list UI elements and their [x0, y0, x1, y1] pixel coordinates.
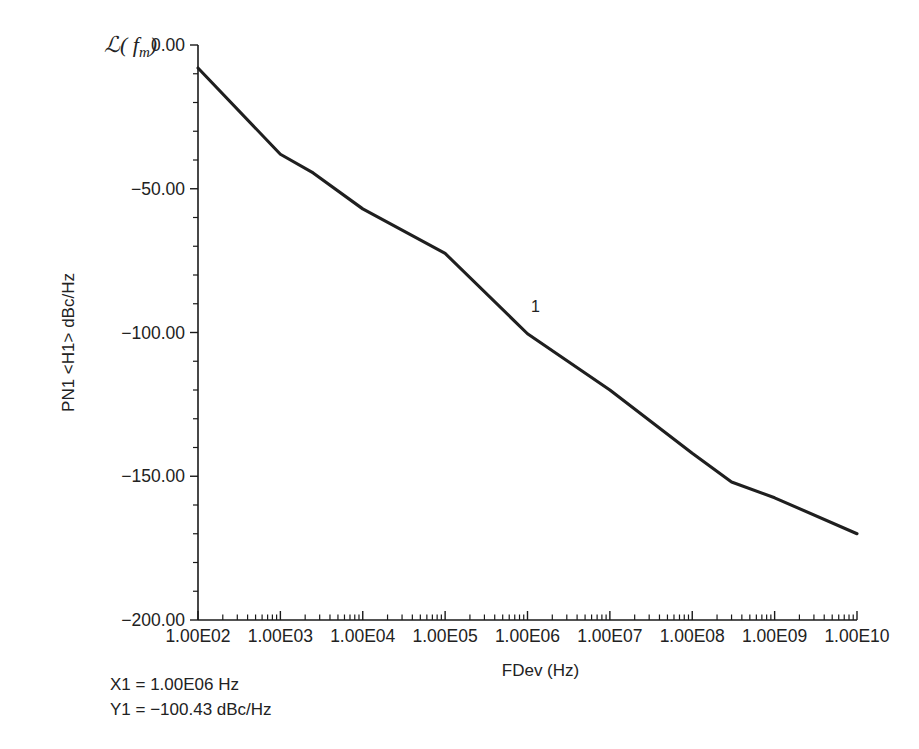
chart-canvas: 0.00−50.00−100.00−150.00−200.001.00E021.… [0, 0, 919, 749]
phase-noise-plot: 0.00−50.00−100.00−150.00−200.001.00E021.… [0, 0, 919, 749]
x-tick-label: 1.00E02 [165, 626, 230, 646]
x-tick-label: 1.00E04 [330, 626, 395, 646]
x-tick-label: 1.00E05 [413, 626, 478, 646]
y-axis-title: PN1 <H1> dBc/Hz [59, 273, 78, 412]
trace-line [198, 68, 857, 534]
y-tick-label: −150.00 [121, 466, 185, 486]
readout-y1: Y1 = −100.43 dBc/Hz [110, 700, 272, 719]
x-tick-label: 1.00E08 [660, 626, 725, 646]
x-tick-label: 1.00E10 [824, 626, 889, 646]
x-tick-label: 1.00E06 [495, 626, 560, 646]
marker-1: 1 [531, 298, 540, 315]
x-tick-label: 1.00E09 [742, 626, 807, 646]
x-tick-label: 1.00E03 [248, 626, 313, 646]
y-tick-label: −100.00 [121, 323, 185, 343]
y-axis-symbol: ℒ( fm) [104, 32, 157, 60]
x-tick-label: 1.00E07 [577, 626, 642, 646]
x-axis-title: FDev (Hz) [502, 661, 579, 680]
y-tick-label: −50.00 [131, 179, 185, 199]
readout-x1: X1 = 1.00E06 Hz [110, 675, 239, 694]
